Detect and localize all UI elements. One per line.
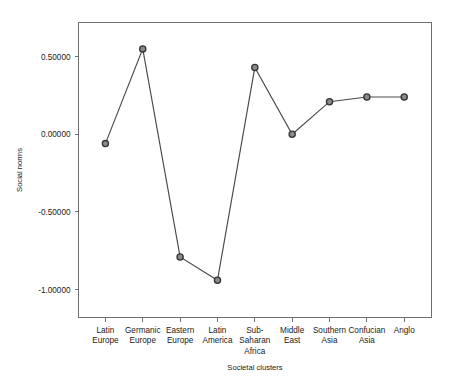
y-axis-tick-labels: 0.500000.00000-0.50000-1.00000 <box>38 53 71 295</box>
x-tick-label: GermanicEurope <box>125 326 161 346</box>
x-axis-tick-labels: LatinEuropeGermanicEuropeEasternEuropeLa… <box>92 326 415 356</box>
y-tick-label: 0.50000 <box>41 53 71 62</box>
x-tick-label: Anglo <box>394 326 415 335</box>
x-tick-label: ConfucianAsia <box>348 326 385 346</box>
data-line-social-norms <box>105 49 404 280</box>
y-tick-label: -1.00000 <box>38 286 71 295</box>
y-tick-label: -0.50000 <box>38 208 71 217</box>
data-point <box>289 131 295 137</box>
data-point <box>214 277 220 283</box>
y-tick-label: 0.00000 <box>41 130 71 139</box>
x-axis-ticks <box>105 318 404 322</box>
data-point <box>177 254 183 260</box>
y-axis-ticks <box>75 57 79 290</box>
data-point <box>364 94 370 100</box>
data-point <box>401 94 407 100</box>
data-point <box>252 64 258 70</box>
data-point <box>140 46 146 52</box>
data-point <box>102 141 108 147</box>
x-tick-label: SouthernAsia <box>313 326 347 346</box>
x-tick-label: LatinEurope <box>92 326 119 346</box>
x-axis-title: Societal clusters <box>227 363 282 372</box>
x-tick-label: MiddleEast <box>280 326 305 346</box>
y-axis-title: Social norms <box>15 148 24 192</box>
chart-canvas: 0.500000.00000-0.50000-1.00000 LatinEuro… <box>0 0 452 386</box>
x-tick-label: LatinAmerica <box>202 326 232 346</box>
x-tick-label: EasternEurope <box>166 326 195 346</box>
x-tick-label: Sub-SaharanAfrica <box>239 326 270 356</box>
data-point <box>326 99 332 105</box>
line-chart: 0.500000.00000-0.50000-1.00000 LatinEuro… <box>0 0 452 386</box>
